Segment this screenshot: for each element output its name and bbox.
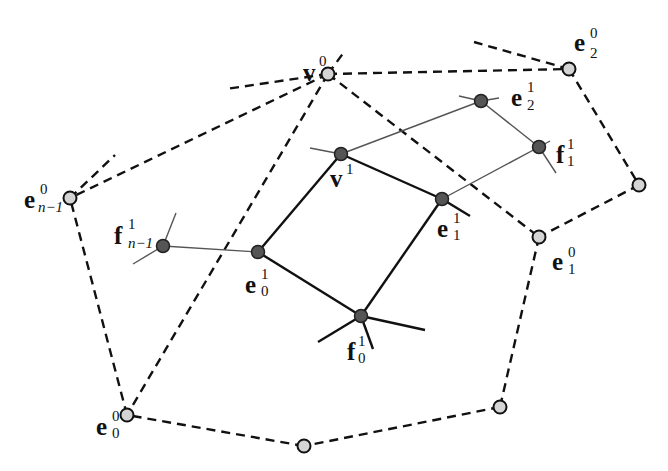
label-sup: 1 [358, 334, 366, 349]
vertex-bottom-mid [298, 440, 311, 453]
label-sup: 0 [590, 26, 598, 41]
label-sub: 1 [567, 154, 575, 169]
edge-e2_0-right [569, 69, 639, 185]
label-sub: 0 [261, 284, 269, 299]
edge-v0-e2_0 [328, 69, 569, 74]
label-f0_1: f10 [347, 339, 355, 364]
edge-e1_0-bottom-right [500, 237, 539, 407]
edge-v1-e2_1 [341, 101, 481, 154]
label-v0: v0 [303, 60, 316, 85]
edge-v0-en1_0 [70, 74, 328, 198]
subdivision-diagram [0, 0, 668, 471]
label-e1_1: e11 [437, 216, 448, 241]
vertex-e0_1 [252, 246, 265, 259]
label-sup: 1 [128, 217, 136, 232]
edge-e1_1-f0_1 [361, 199, 442, 316]
edge-e0_1-v1 [258, 154, 341, 252]
label-sub: n−1 [38, 200, 63, 215]
label-sub: 1 [568, 262, 576, 277]
edge-bottom-right-bottom-mid [304, 407, 500, 446]
label-sup: 1 [527, 80, 535, 95]
edge-e0_1-fn1_1 [163, 246, 258, 252]
vertex-fn1_1 [157, 240, 170, 253]
label-e2_1: e12 [511, 85, 522, 110]
vertex-e1_1 [436, 193, 449, 206]
label-base: f [347, 338, 355, 365]
label-sub: 0 [358, 351, 366, 366]
label-en1_0: e0n−1 [24, 187, 35, 212]
label-sup: 1 [567, 137, 575, 152]
label-sub: 2 [527, 98, 535, 113]
fine-thin-edges [133, 96, 556, 264]
label-sup: 0 [40, 182, 48, 197]
coarse-dashed-edges [70, 42, 639, 446]
label-base: e [24, 186, 35, 213]
label-e2_0: e02 [574, 30, 585, 55]
vertex-e2_1 [475, 95, 488, 108]
label-sub: 0 [112, 426, 120, 441]
label-sup: 0 [568, 245, 576, 260]
label-base: f [556, 141, 564, 168]
label-base: e [511, 84, 522, 111]
label-base: e [574, 29, 585, 56]
label-f1_1: f11 [556, 142, 564, 167]
vertex-v1 [335, 148, 348, 161]
label-base: e [552, 248, 563, 275]
vertex-en1_0 [64, 192, 77, 205]
vertex-f0_1 [355, 310, 368, 323]
label-sup: 1 [346, 162, 354, 177]
vertex-e2_0 [563, 63, 576, 76]
label-sup: 0 [112, 409, 120, 424]
vertex-e1_0 [533, 231, 546, 244]
vertex-f1_1 [533, 141, 546, 154]
edge-v1-e1_1 [341, 154, 442, 199]
label-base: f [114, 222, 122, 249]
label-fn1_1: f1n−1 [114, 223, 122, 248]
label-base: e [245, 271, 256, 298]
label-e1_0: e01 [552, 249, 563, 274]
vertex-e0_0 [121, 409, 134, 422]
label-base: v [303, 59, 316, 86]
edge-f1_1-e1_1 [442, 147, 539, 199]
label-v1: v1 [330, 166, 343, 191]
vertex-right [633, 179, 646, 192]
label-sub: n−1 [128, 236, 153, 251]
edge-e2_0-stub [474, 42, 569, 69]
edge-bottom-mid-e0_0 [127, 415, 304, 446]
edge-f0_1-stub-right [361, 316, 425, 330]
label-e0_1: e10 [245, 272, 256, 297]
label-sub: 2 [590, 46, 598, 61]
label-sub: 1 [453, 228, 461, 243]
vertex-v0 [322, 68, 335, 81]
edge-f0_1-e0_1 [258, 252, 361, 316]
label-base: e [96, 413, 107, 440]
vertex-bottom-right [494, 401, 507, 414]
label-base: e [437, 215, 448, 242]
label-sup: 1 [453, 211, 461, 226]
edge-en1_0-stub [70, 155, 115, 198]
label-base: v [330, 165, 343, 192]
label-sup: 1 [261, 267, 269, 282]
label-sup: 0 [319, 54, 327, 69]
label-e0_0: e00 [96, 414, 107, 439]
edge-right-e1_0 [539, 185, 639, 237]
